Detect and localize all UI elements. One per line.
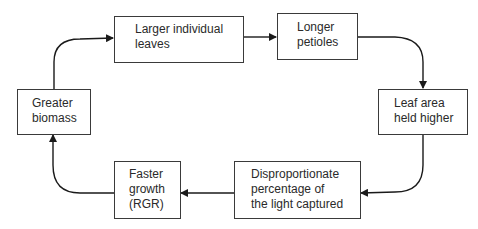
arrow-biomass-to-leaves (54, 38, 113, 89)
node-label: Larger individual leaves (135, 22, 223, 52)
node-larger-leaves: Larger individual leaves (114, 16, 244, 63)
arrow-leafarea-to-light (361, 135, 423, 193)
node-longer-petioles: Longer petioles (277, 13, 358, 60)
node-faster-growth: Faster growth (RGR) (114, 161, 181, 219)
node-label: Leaf area held higher (394, 96, 453, 126)
node-greater-biomass: Greater biomass (17, 89, 91, 135)
node-label: Faster growth (RGR) (129, 167, 165, 212)
arrow-petioles-to-leafarea (358, 37, 423, 88)
node-label: Disproportionate percentage of the light… (251, 167, 343, 212)
node-light-captured: Disproportionate percentage of the light… (234, 161, 361, 219)
node-label: Longer petioles (297, 20, 338, 50)
node-label: Greater biomass (32, 96, 77, 126)
arrow-growth-to-biomass (53, 135, 114, 193)
node-leaf-area-held-higher: Leaf area held higher (378, 89, 468, 135)
